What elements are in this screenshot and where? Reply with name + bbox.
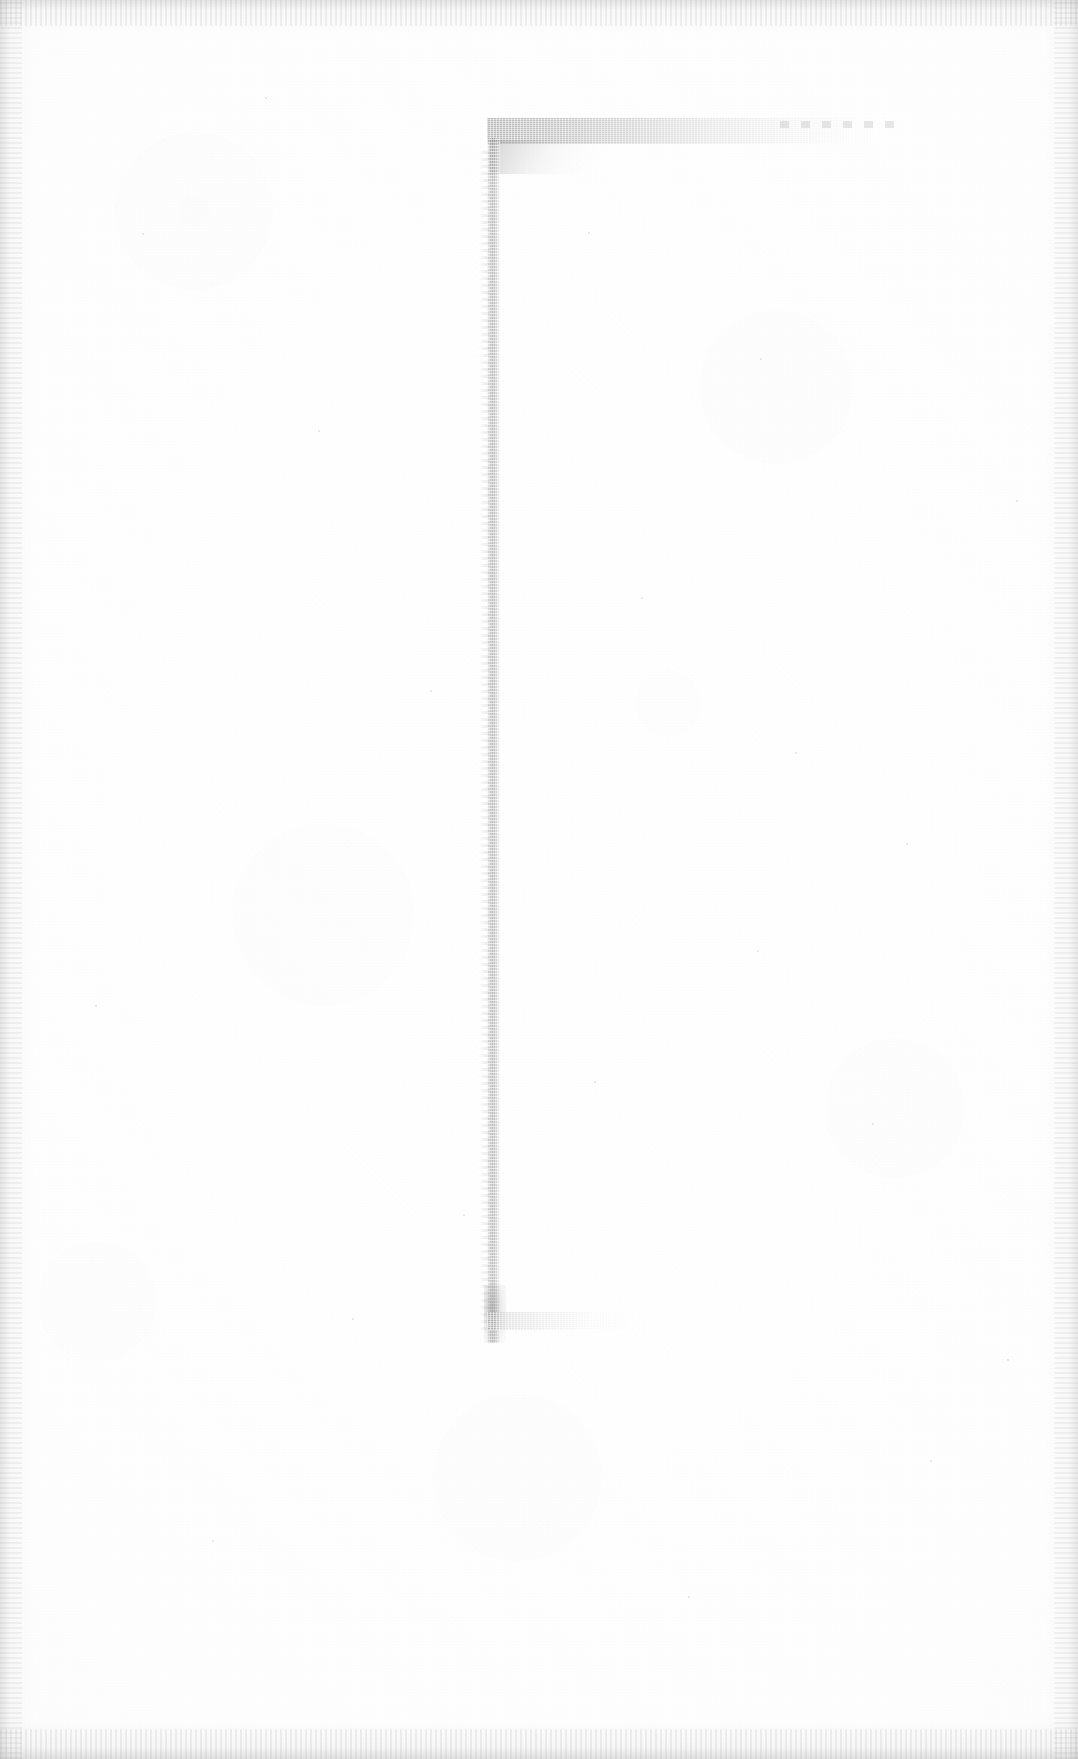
scanned-page [0,0,1078,1759]
scan-edge-speckle-v [0,0,1078,1759]
